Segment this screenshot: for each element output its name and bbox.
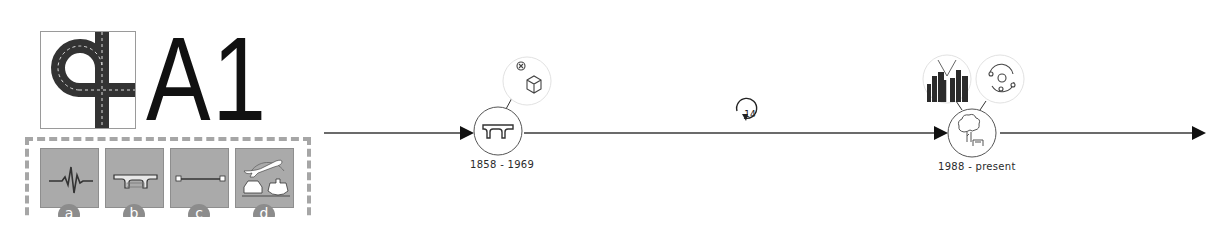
category-tile-b[interactable]: [105, 148, 164, 208]
arrow-head-icon: [460, 126, 474, 140]
seismic-wave-icon: [41, 149, 100, 209]
category-tile-a[interactable]: [40, 148, 99, 208]
road-interchange-icon: [40, 31, 136, 129]
annotation-bubble[interactable]: [503, 57, 551, 105]
timeline-node-1[interactable]: [474, 98, 522, 155]
category-tile-d[interactable]: [235, 148, 294, 208]
page-title: A1: [146, 20, 268, 138]
node-date-label: 1988 - present: [938, 161, 1016, 172]
node-date-label: 1858 - 1969: [470, 159, 534, 170]
transport-modes-icon: [236, 149, 295, 209]
arrow-head-icon: [1192, 126, 1206, 140]
span-line-icon: [171, 149, 230, 209]
category-tile-c[interactable]: [170, 148, 229, 208]
bridge-deck-icon: [106, 149, 165, 209]
cycle-years-label: 14: [740, 109, 760, 119]
arrow-head-icon: [934, 126, 948, 140]
annotation-bubble[interactable]: [923, 55, 971, 103]
timeline-node-2[interactable]: [948, 101, 996, 157]
annotation-bubble[interactable]: [976, 55, 1024, 103]
